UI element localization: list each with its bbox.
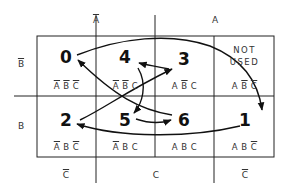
term-cell-3: A B C: [155, 81, 214, 91]
arrow-1-to-2: [77, 124, 240, 135]
term-cell-5: A B C: [96, 142, 155, 152]
arrow-5-to-6: [136, 119, 171, 123]
bottom-header-not-c-left: C: [60, 170, 72, 180]
arrow-3-to-4: [139, 63, 169, 69]
term-cell-1: A B C: [215, 142, 274, 152]
column-header-a: A: [209, 15, 221, 25]
row-header-not-b: B: [15, 59, 27, 69]
bottom-header-not-c-right: C: [239, 170, 251, 180]
state-0: 0: [51, 47, 81, 67]
row-header-b: B: [15, 121, 27, 131]
kmap-grid: [0, 0, 283, 191]
bottom-header-c: C: [150, 170, 162, 180]
term-cell-4: A B C: [96, 81, 155, 91]
state-1: 1: [230, 110, 260, 130]
term-cell-6: A B C: [155, 142, 214, 152]
state-3: 3: [169, 49, 199, 69]
column-header-not-a: A: [90, 15, 102, 25]
term-cell-0: A B C: [37, 81, 96, 91]
term-cell-2: A B C: [37, 142, 96, 152]
state-2: 2: [51, 110, 81, 130]
state-5: 5: [110, 110, 140, 130]
term-cell-not-used: A B C: [215, 81, 274, 91]
not-used-label: NOTUSED: [215, 44, 274, 68]
state-4: 4: [110, 47, 140, 67]
state-6: 6: [169, 110, 199, 130]
